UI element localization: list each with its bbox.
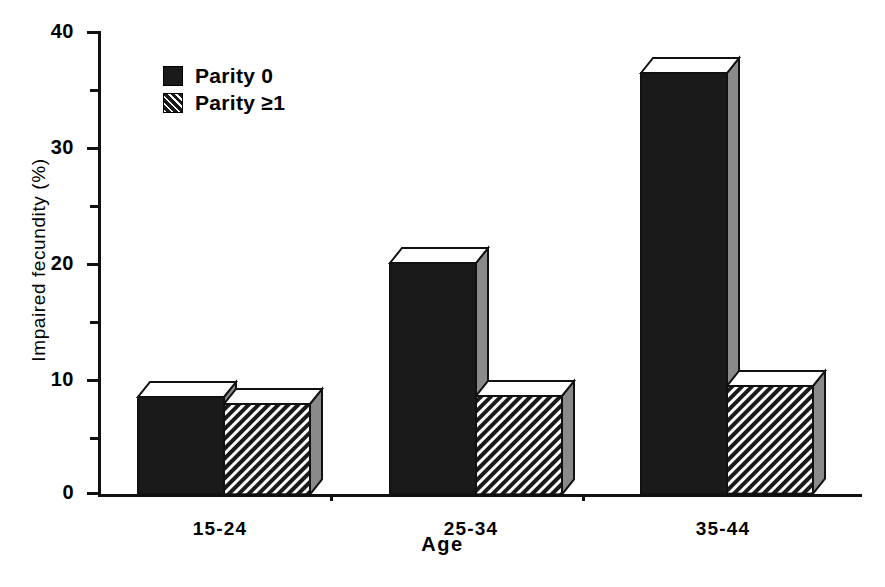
- legend-item-parity-1plus: Parity ≥1: [163, 89, 393, 116]
- bar-35-44-parity-0: [640, 57, 740, 495]
- chart-legend: Parity 0 Parity ≥1: [163, 62, 393, 116]
- chart-container: Impaired fecundity (%) 40 30 20 10 0 15-…: [0, 0, 885, 587]
- bar-15-24-parity-0: [137, 381, 237, 495]
- y-tick-30: [87, 147, 99, 150]
- legend-label-parity-1plus: Parity ≥1: [195, 91, 285, 115]
- legend-item-parity-0: Parity 0: [163, 62, 393, 89]
- x-tick-1: [330, 494, 333, 501]
- y-tick-15: [90, 321, 99, 324]
- y-tick-label-10: 10: [28, 369, 74, 389]
- y-tick-40: [87, 31, 99, 34]
- y-tick-label-20: 20: [28, 253, 74, 273]
- y-tick-0: [87, 492, 99, 495]
- y-tick-20: [87, 263, 99, 266]
- x-tick-2: [582, 494, 585, 501]
- bar-25-34-parity-0: [389, 247, 489, 496]
- y-tick-label-40: 40: [28, 21, 74, 41]
- y-tick-label-0: 0: [28, 482, 74, 502]
- y-tick-10: [87, 379, 99, 382]
- bar-25-34-parity-1: [475, 380, 575, 495]
- solid-black-swatch: [163, 66, 183, 86]
- legend-label-parity-0: Parity 0: [195, 64, 273, 88]
- bar-35-44-parity-1: [726, 370, 826, 495]
- y-tick-25: [90, 205, 99, 208]
- y-tick-label-30: 30: [28, 137, 74, 157]
- bar-15-24-parity-1: [223, 388, 323, 495]
- x-axis-title: Age: [0, 533, 885, 556]
- y-tick-5: [90, 437, 99, 440]
- hatched-swatch: [163, 93, 183, 113]
- y-tick-35: [90, 89, 99, 92]
